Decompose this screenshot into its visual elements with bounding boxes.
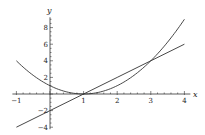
x-tick-label: 3 <box>149 97 153 105</box>
y-tick-label: 2 <box>44 74 48 82</box>
y-tick-label: −2 <box>38 107 48 115</box>
x-tick-label: 4 <box>182 97 187 105</box>
tick-labels: −11234−4−22468 <box>11 24 187 132</box>
y-tick-label: 4 <box>44 57 49 65</box>
y-tick-label: 8 <box>44 24 48 32</box>
x-tick-label: 2 <box>115 97 119 105</box>
x-tick-label: 1 <box>81 97 85 105</box>
x-tick-label: −1 <box>11 97 21 105</box>
x-axis-label: x <box>193 90 198 99</box>
chart: −11234−4−22468 x y <box>0 0 205 135</box>
y-tick-label: 6 <box>44 41 49 49</box>
y-axis-label: y <box>46 6 52 15</box>
y-tick-label: −4 <box>38 124 49 132</box>
